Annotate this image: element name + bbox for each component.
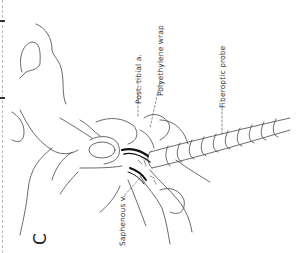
hand-outline: [36, 24, 66, 104]
label-fiberoptic-probe: Fiberoptic probe: [218, 46, 227, 108]
label-post-tibial: Post. tibial a.: [134, 54, 143, 104]
figure-page: Post. tibial a. Polyethylene wrap Fibero…: [0, 0, 298, 253]
label-saphenous-v: Saphenous v.: [118, 195, 127, 246]
label-polyethylene-wrap: Polyethylene wrap: [156, 25, 165, 96]
surgical-illustration: [0, 0, 298, 253]
panel-letter: C: [30, 233, 50, 245]
